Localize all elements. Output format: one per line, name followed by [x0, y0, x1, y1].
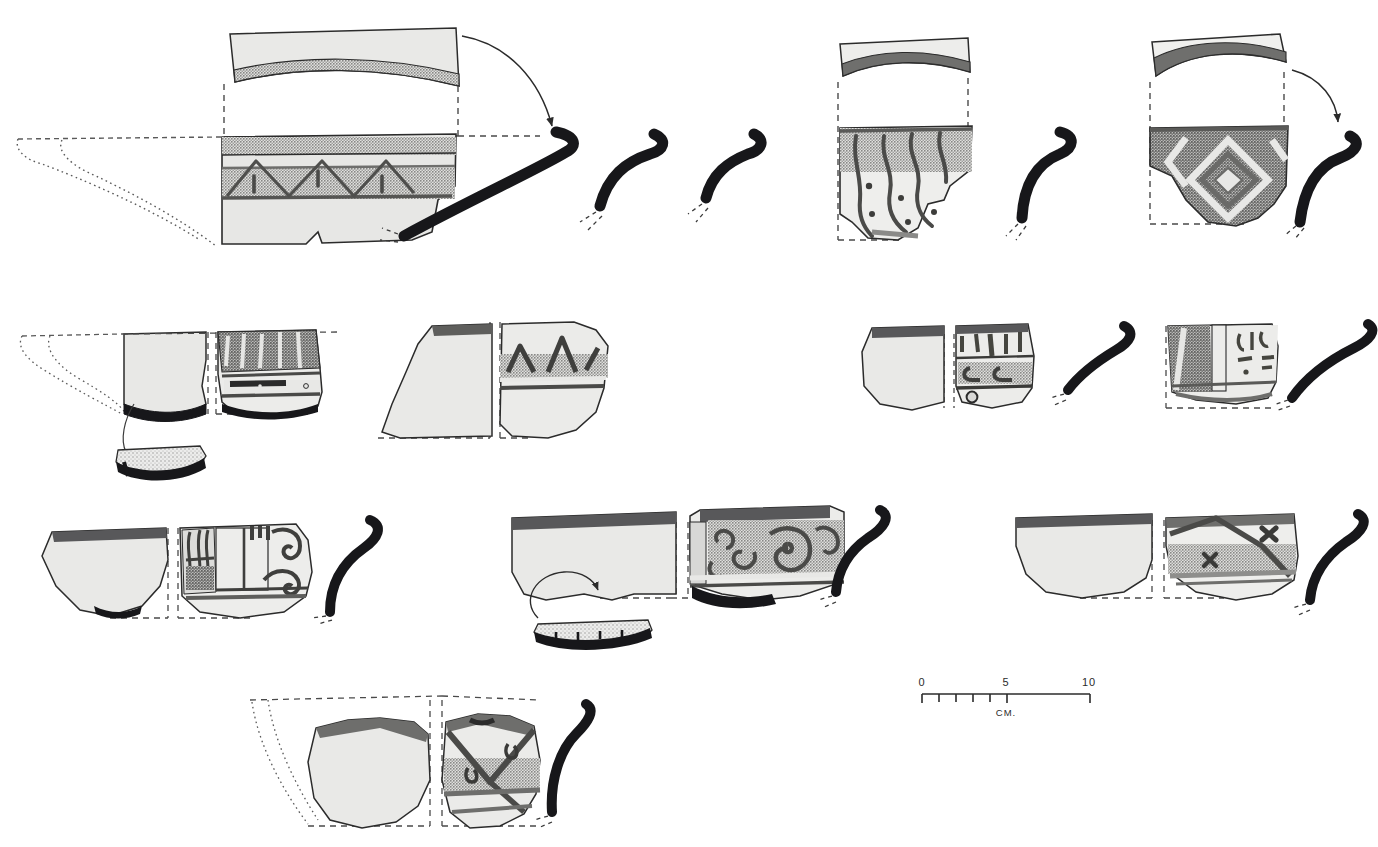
perforation-hole	[967, 392, 978, 403]
glyph-motif-5	[1262, 357, 1274, 358]
band-line-base	[186, 596, 306, 598]
sherd-body-4a-left	[308, 718, 430, 828]
rim-dark-band	[872, 326, 944, 338]
sherd-body-2d	[1168, 324, 1278, 404]
reserve-line	[500, 378, 606, 380]
glyph-motif-6	[1262, 367, 1272, 368]
left-reserve-panel	[690, 522, 706, 584]
lower-stipple-band	[222, 168, 455, 199]
glyph-motif-4	[1238, 358, 1252, 360]
band-line-lower	[956, 386, 1032, 388]
scale-unit-label: CM.	[996, 707, 1016, 718]
ring-motif	[304, 384, 309, 389]
sherd-outline	[124, 332, 206, 418]
rim-line	[1150, 128, 1288, 130]
reserve-panel	[1212, 325, 1226, 391]
scale-tick-label-0: 0	[918, 676, 925, 688]
scale-tick-label-5: 5	[1002, 676, 1009, 688]
band-line-lower	[222, 196, 452, 198]
dot-motif	[898, 195, 904, 201]
rim-line	[840, 129, 972, 131]
sherd-body-2a-right	[218, 330, 322, 420]
panel-stipple	[186, 566, 214, 590]
dot-motif	[905, 219, 911, 225]
stroke-3	[990, 334, 992, 356]
dot-motif	[869, 211, 875, 217]
dot-motif	[931, 209, 937, 215]
panel-divider	[186, 558, 214, 560]
dot-motif	[866, 183, 872, 189]
scale-tick-label-10: 10	[1082, 676, 1096, 688]
dark-bar-motif	[230, 383, 286, 384]
sherd-body-4a-right	[442, 714, 540, 828]
dot-motif	[1243, 369, 1248, 374]
dot-motif	[258, 384, 262, 388]
sherd-body-2a-left	[124, 332, 206, 422]
rim-dark-band	[432, 324, 492, 336]
stroke-2	[976, 334, 978, 352]
sherd-body-3a-right	[180, 524, 312, 618]
band-line	[500, 386, 604, 388]
sherd-outline	[862, 326, 944, 410]
upper-stipple-band	[218, 330, 320, 372]
band-line-2	[222, 394, 320, 396]
upper-stipple-band	[222, 137, 456, 155]
sherd-body-2c-right	[956, 324, 1034, 408]
sherd-body-2c-left	[862, 326, 944, 410]
upper-stipple-band	[840, 128, 972, 172]
pottery-plate-figure: 0 5 10 CM.	[0, 0, 1378, 847]
band-line-lower	[216, 588, 308, 590]
